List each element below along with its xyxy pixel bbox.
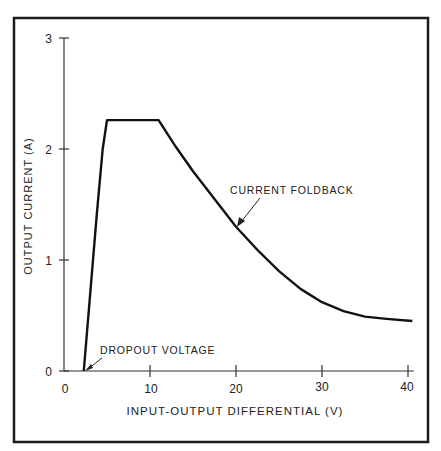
arrowhead-icon	[85, 364, 93, 371]
arrow-icon	[241, 198, 260, 222]
x-tick-label: 20	[229, 382, 243, 396]
current-curve	[84, 120, 413, 371]
dropout-voltage-label: DROPOUT VOLTAGE	[100, 344, 215, 356]
x-axis-label: INPUT-OUTPUT DIFFERENTIAL (V)	[127, 405, 344, 417]
x-tick-label: 0	[62, 382, 69, 396]
y-tick-label: 1	[45, 254, 52, 268]
y-axis: 3 2 1 0 OUTPUT CURRENT (A)	[22, 32, 69, 379]
y-axis-label: OUTPUT CURRENT (A)	[22, 137, 34, 274]
chart: 3 2 1 0 OUTPUT CURRENT (A) 0 10 20 30 40…	[0, 0, 441, 451]
x-tick-label: 10	[144, 382, 158, 396]
x-tick-label: 40	[400, 380, 414, 394]
annotation-foldback: CURRENT FOLDBACK	[230, 184, 353, 227]
chart-frame	[14, 18, 428, 442]
x-tick-label: 30	[315, 380, 329, 394]
y-tick-label: 3	[45, 32, 52, 46]
x-axis: 0 10 20 30 40 INPUT-OUTPUT DIFFERENTIAL …	[62, 365, 414, 417]
current-foldback-label: CURRENT FOLDBACK	[230, 184, 353, 196]
y-tick-label: 0	[45, 365, 52, 379]
y-tick-label: 2	[45, 143, 52, 157]
